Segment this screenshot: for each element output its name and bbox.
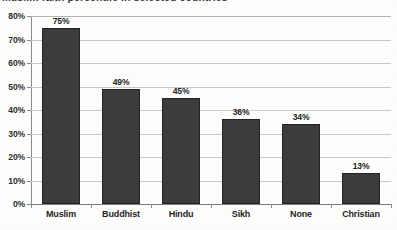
- bar-slot: 75%: [31, 16, 91, 204]
- plot-area: 0%10%20%30%40%50%60%70%80% 75%49%45%36%3…: [31, 16, 391, 204]
- x-axis-category-label: Buddhist: [91, 209, 151, 219]
- y-axis-tick-label: 70%: [8, 35, 25, 45]
- bar-value-label: 45%: [151, 86, 211, 96]
- bar-slot: 34%: [271, 16, 331, 204]
- bar: [162, 98, 200, 204]
- bar-slot: 49%: [91, 16, 151, 204]
- x-axis-category-label: Hindu: [151, 209, 211, 219]
- x-axis-tick: [151, 204, 152, 208]
- bar: [102, 89, 140, 204]
- x-axis-category-label: Sikh: [211, 209, 271, 219]
- bar-value-label: 36%: [211, 107, 271, 117]
- y-axis-tick-label: 30%: [8, 129, 25, 139]
- bar-slot: 13%: [331, 16, 391, 204]
- bar: [42, 28, 80, 204]
- y-axis-tick-label: 50%: [8, 82, 25, 92]
- x-axis-category-label: Christian: [331, 209, 391, 219]
- bar-chart-figure: Muslim faith percentile in selected coun…: [0, 0, 397, 230]
- y-axis-tick-label: 10%: [8, 176, 25, 186]
- bar-value-label: 75%: [31, 16, 91, 26]
- bar-slot: 45%: [151, 16, 211, 204]
- bar: [342, 173, 380, 204]
- bar-value-label: 34%: [271, 112, 331, 122]
- x-axis-category-label: None: [271, 209, 331, 219]
- bar-slot: 36%: [211, 16, 271, 204]
- x-axis-category-label: Muslim: [31, 209, 91, 219]
- x-axis-tick: [331, 204, 332, 208]
- chart-title-text: Muslim faith percentile in selected coun…: [0, 0, 397, 3]
- y-axis-tick-label: 80%: [8, 11, 25, 21]
- y-axis-tick-label: 60%: [8, 58, 25, 68]
- y-axis-tick-label: 0%: [13, 199, 25, 209]
- x-axis-tick: [31, 204, 32, 208]
- bar: [282, 124, 320, 204]
- x-axis-tick: [211, 204, 212, 208]
- x-axis-tick: [271, 204, 272, 208]
- bar-value-label: 13%: [331, 161, 391, 171]
- bar-value-label: 49%: [91, 77, 151, 87]
- y-axis-tick-label: 40%: [8, 105, 25, 115]
- x-axis-tick: [391, 204, 392, 208]
- chart-title-clipped: Muslim faith percentile in selected coun…: [0, 0, 397, 5]
- y-axis-tick-label: 20%: [8, 152, 25, 162]
- x-axis-tick: [91, 204, 92, 208]
- bar: [222, 119, 260, 204]
